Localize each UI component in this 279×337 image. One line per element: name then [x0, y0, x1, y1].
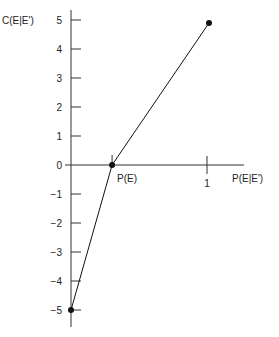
y-tick-label: 1 — [56, 131, 62, 142]
p-e-label: P(E) — [117, 173, 137, 184]
data-series — [68, 20, 212, 313]
y-tick-label: 3 — [56, 73, 62, 84]
y-tick-label: 4 — [56, 44, 62, 55]
y-tick-label: 5 — [56, 15, 62, 26]
chart: 543210−1−2−3−4−51 P(E)C(E|E')P(E|E') — [0, 0, 279, 337]
y-tick-label: 0 — [56, 160, 62, 171]
y-axis-title: C(E|E') — [2, 15, 34, 26]
x-tick-label: 1 — [204, 178, 210, 189]
data-point — [109, 162, 115, 168]
data-point — [206, 20, 212, 26]
axes — [65, 10, 244, 327]
x-axis-title: P(E|E') — [232, 173, 263, 184]
series-line — [71, 23, 209, 310]
y-tick-label: 2 — [56, 102, 62, 113]
axis-labels: P(E)C(E|E')P(E|E') — [2, 15, 263, 184]
y-tick-label: −4 — [51, 276, 63, 287]
y-tick-label: −2 — [51, 218, 63, 229]
y-tick-label: −1 — [51, 189, 63, 200]
y-tick-label: −3 — [51, 247, 63, 258]
data-point — [68, 307, 74, 313]
y-tick-label: −5 — [51, 305, 63, 316]
